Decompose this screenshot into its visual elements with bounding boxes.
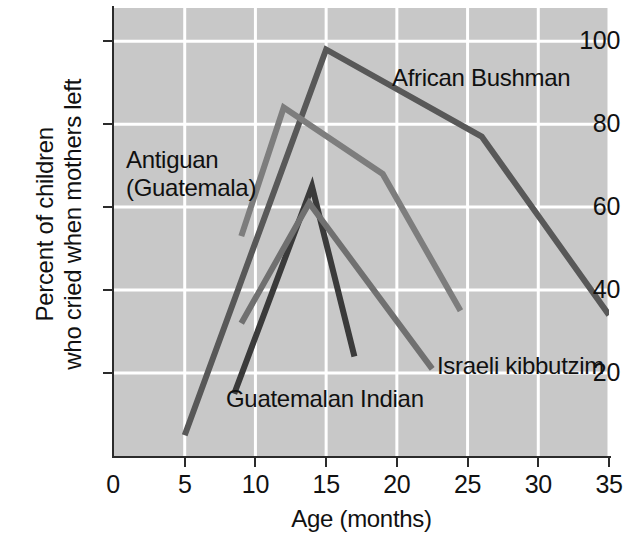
y-axis-tick-label: 60 bbox=[533, 194, 633, 219]
y-axis-tick-label: 80 bbox=[533, 111, 633, 136]
x-axis-tick-label: 10 bbox=[220, 472, 290, 497]
x-axis-tick bbox=[608, 458, 610, 467]
x-axis-tick bbox=[396, 458, 398, 467]
series-label-guatemalan-indian: Guatemalan Indian bbox=[226, 385, 424, 413]
y-axis-tick bbox=[103, 206, 112, 208]
x-axis-tick-label: 35 bbox=[574, 472, 633, 497]
x-axis-tick bbox=[325, 458, 327, 467]
series-label-israeli-kibbutzim: Israeli kibbutzim bbox=[437, 352, 604, 380]
y-axis-tick-label: 40 bbox=[533, 277, 633, 302]
y-axis-tick bbox=[103, 123, 112, 125]
y-axis-title: Percent of children who cried when mothe… bbox=[31, 0, 88, 449]
chart-container: 20406080100 05101520253035 Age (months) … bbox=[0, 0, 633, 534]
x-axis-tick bbox=[254, 458, 256, 467]
x-axis-tick bbox=[184, 458, 186, 467]
x-axis-line bbox=[112, 456, 611, 458]
y-axis-tick bbox=[103, 372, 112, 374]
x-axis-tick-label: 25 bbox=[433, 472, 503, 497]
y-axis-tick bbox=[103, 40, 112, 42]
y-axis-title-line-1: Percent of children bbox=[31, 0, 59, 449]
series-label-african-bushman: African Bushman bbox=[392, 64, 570, 92]
x-axis-tick-label: 0 bbox=[78, 472, 148, 497]
x-axis-title: Age (months) bbox=[114, 505, 609, 533]
x-axis-tick bbox=[537, 458, 539, 467]
x-axis-tick-label: 15 bbox=[291, 472, 361, 497]
x-axis-tick bbox=[467, 458, 469, 467]
x-axis-tick-label: 30 bbox=[503, 472, 573, 497]
x-axis-tick-label: 5 bbox=[150, 472, 220, 497]
y-axis-tick-label: 100 bbox=[533, 28, 633, 53]
y-axis-tick bbox=[103, 289, 112, 291]
series-label-antiguan: Antiguan (Guatemala) bbox=[126, 146, 256, 201]
y-axis-line bbox=[112, 6, 114, 458]
x-axis-tick-label: 20 bbox=[362, 472, 432, 497]
y-axis-title-line-2: who cried when mothers left bbox=[59, 0, 87, 449]
